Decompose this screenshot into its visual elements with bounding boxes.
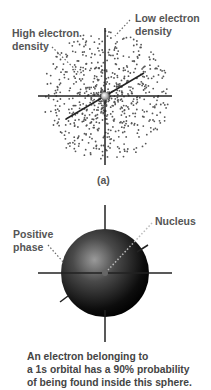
electron-dot bbox=[57, 100, 59, 102]
electron-dot bbox=[73, 112, 75, 114]
nucleus-a bbox=[101, 92, 109, 100]
electron-dot bbox=[160, 69, 162, 71]
electron-dot bbox=[145, 143, 147, 145]
electron-dot bbox=[155, 104, 157, 106]
electron-dot bbox=[116, 41, 118, 43]
electron-dot bbox=[127, 106, 129, 108]
electron-dot bbox=[64, 77, 66, 79]
electron-dot bbox=[73, 83, 75, 85]
electron-dot bbox=[60, 82, 62, 84]
electron-dot bbox=[142, 125, 144, 127]
electron-dot bbox=[129, 115, 131, 117]
electron-dot bbox=[130, 36, 132, 38]
electron-dot bbox=[108, 54, 110, 56]
label-line: Positive bbox=[13, 228, 53, 241]
electron-dot bbox=[117, 50, 119, 52]
electron-dot bbox=[90, 99, 92, 101]
electron-dot bbox=[159, 120, 161, 122]
label-line: phase bbox=[13, 241, 53, 254]
electron-dot bbox=[80, 88, 82, 90]
electron-dot bbox=[85, 40, 87, 42]
electron-dot bbox=[83, 34, 85, 36]
electron-dot bbox=[96, 121, 98, 123]
electron-dot bbox=[102, 51, 104, 53]
electron-dot bbox=[155, 59, 157, 61]
pointer-low-density bbox=[115, 20, 130, 36]
electron-dot bbox=[121, 98, 123, 100]
electron-dot bbox=[117, 146, 119, 148]
electron-dot bbox=[56, 115, 58, 117]
electron-dot bbox=[97, 94, 99, 96]
electron-dot bbox=[109, 142, 111, 144]
electron-dot bbox=[131, 93, 133, 95]
electron-dot bbox=[82, 67, 84, 69]
label-low-density: Low electron density bbox=[135, 12, 200, 38]
electron-dot bbox=[80, 80, 82, 82]
electron-dot bbox=[94, 41, 96, 43]
electron-dot bbox=[153, 120, 155, 122]
electron-dot bbox=[118, 148, 120, 150]
electron-dot bbox=[101, 104, 103, 106]
electron-dot bbox=[110, 32, 112, 34]
electron-dot bbox=[119, 83, 121, 85]
electron-dot bbox=[133, 51, 135, 53]
electron-dot bbox=[80, 35, 82, 37]
electron-dot bbox=[129, 89, 131, 91]
electron-dot bbox=[117, 97, 119, 99]
electron-dot bbox=[123, 77, 125, 79]
electron-dot bbox=[86, 91, 88, 93]
electron-dot bbox=[167, 104, 169, 106]
electron-dot bbox=[96, 84, 98, 86]
electron-dot bbox=[60, 71, 62, 73]
electron-dot bbox=[156, 81, 158, 83]
electron-dot bbox=[150, 131, 152, 133]
electron-dot bbox=[60, 59, 62, 61]
electron-dot bbox=[50, 110, 52, 112]
electron-dot bbox=[74, 125, 76, 127]
electron-dot bbox=[139, 97, 141, 99]
electron-dot bbox=[165, 107, 167, 109]
electron-dot bbox=[120, 108, 122, 110]
electron-dot bbox=[145, 92, 147, 94]
electron-dot bbox=[116, 47, 118, 49]
electron-dot bbox=[82, 54, 84, 56]
electron-dot bbox=[93, 86, 95, 88]
electron-dot bbox=[68, 120, 70, 122]
electron-dot bbox=[116, 75, 118, 77]
electron-dot bbox=[98, 38, 100, 40]
electron-dot bbox=[110, 129, 112, 131]
electron-dot bbox=[141, 85, 143, 87]
electron-dot bbox=[93, 109, 95, 111]
electron-dot bbox=[107, 156, 109, 158]
electron-dot bbox=[131, 123, 133, 125]
electron-dot bbox=[55, 112, 57, 114]
electron-dot bbox=[110, 76, 112, 78]
electron-dot bbox=[50, 75, 52, 77]
electron-dot bbox=[58, 110, 60, 112]
electron-dot bbox=[138, 136, 140, 138]
electron-dot bbox=[63, 103, 65, 105]
electron-dot bbox=[83, 83, 85, 85]
electron-dot bbox=[133, 71, 135, 73]
electron-dot bbox=[72, 97, 74, 99]
electron-dot bbox=[89, 69, 91, 71]
electron-dot bbox=[108, 52, 110, 54]
electron-dot bbox=[112, 55, 114, 57]
electron-dot bbox=[117, 58, 119, 60]
electron-dot bbox=[163, 70, 165, 72]
electron-dot bbox=[86, 124, 88, 126]
electron-dot bbox=[89, 88, 91, 90]
electron-dot bbox=[133, 45, 135, 47]
electron-dot bbox=[91, 62, 93, 64]
electron-dot bbox=[118, 136, 120, 138]
electron-dot bbox=[106, 118, 108, 120]
electron-dot bbox=[116, 156, 118, 158]
electron-dot bbox=[146, 111, 148, 113]
electron-cloud-diagram bbox=[0, 0, 211, 390]
electron-dot bbox=[101, 145, 103, 147]
electron-dot bbox=[124, 69, 126, 71]
electron-dot bbox=[134, 113, 136, 115]
electron-dot bbox=[143, 116, 145, 118]
electron-dot bbox=[130, 86, 132, 88]
electron-dot bbox=[97, 109, 99, 111]
